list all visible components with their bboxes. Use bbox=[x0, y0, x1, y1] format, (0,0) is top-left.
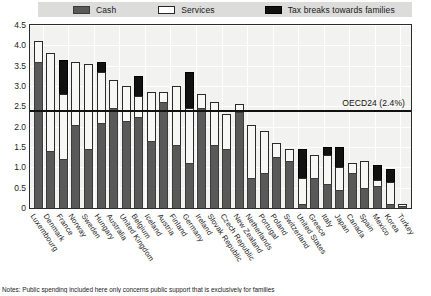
bar-slot bbox=[258, 25, 271, 208]
x-label-slot: Spain bbox=[360, 210, 373, 276]
stacked-bar[interactable] bbox=[134, 76, 143, 208]
bar-segment-services bbox=[386, 182, 395, 204]
x-label-slot: Hungary bbox=[94, 210, 107, 276]
bar-segment-services bbox=[84, 64, 93, 149]
x-label-slot: Luxembourg bbox=[31, 210, 44, 276]
stacked-bar[interactable] bbox=[172, 86, 181, 208]
bar-slot bbox=[233, 25, 246, 208]
x-label-slot: Ireland bbox=[195, 210, 208, 276]
x-label-slot: United Kingdom bbox=[119, 210, 132, 276]
bar-segment-services bbox=[298, 178, 307, 204]
x-label-slot: Greece bbox=[309, 210, 322, 276]
x-label-slot: New Zealand bbox=[233, 210, 246, 276]
legend-item-tax: Tax breaks towards families bbox=[265, 5, 395, 15]
bar-segment-cash bbox=[84, 149, 93, 208]
stacked-bar[interactable] bbox=[285, 149, 294, 208]
x-label-slot: Japan bbox=[334, 210, 347, 276]
stacked-bar[interactable] bbox=[46, 53, 55, 208]
x-label-slot: Sweden bbox=[82, 210, 95, 276]
x-label-slot: Czech Republic bbox=[221, 210, 234, 276]
bar-segment-services bbox=[34, 41, 43, 61]
bar-segment-services bbox=[109, 80, 118, 108]
x-label-slot: Mexico bbox=[372, 210, 385, 276]
stacked-bar[interactable] bbox=[386, 169, 395, 208]
x-label-slot: Austria bbox=[157, 210, 170, 276]
stacked-bar[interactable] bbox=[373, 165, 382, 208]
stacked-bar[interactable] bbox=[71, 62, 80, 208]
bar-segment-cash bbox=[310, 178, 319, 209]
y-axis-tick: 1.5 bbox=[14, 142, 26, 152]
stacked-bar[interactable] bbox=[247, 125, 256, 208]
bar-slot bbox=[321, 25, 334, 208]
stacked-bar[interactable] bbox=[122, 86, 131, 208]
bar-segment-services bbox=[285, 149, 294, 161]
x-label-slot: Switzerland bbox=[284, 210, 297, 276]
bar-segment-tax bbox=[59, 60, 68, 95]
bar-segment-cash bbox=[373, 186, 382, 208]
y-axis-tick: 4.5 bbox=[14, 20, 26, 30]
bar-segment-cash bbox=[159, 102, 168, 208]
y-axis-tick: 3.0 bbox=[14, 81, 26, 91]
bar-segment-cash bbox=[122, 121, 131, 208]
stacked-bar[interactable] bbox=[59, 60, 68, 208]
bar-slot bbox=[396, 25, 409, 208]
cash-swatch-icon bbox=[73, 6, 90, 14]
bar-slot bbox=[334, 25, 347, 208]
stacked-bar[interactable] bbox=[260, 131, 269, 208]
x-label-slot: Belgium bbox=[132, 210, 145, 276]
x-label-slot: Portugal bbox=[259, 210, 272, 276]
stacked-bar[interactable] bbox=[210, 102, 219, 208]
x-label-slot: Germany bbox=[183, 210, 196, 276]
bar-segment-cash bbox=[247, 178, 256, 209]
bar-slot bbox=[82, 25, 95, 208]
oecd-reference-label: OECD24 (2.4%) bbox=[342, 98, 405, 108]
plot-area: OECD24 (2.4%) bbox=[29, 24, 412, 209]
bar-segment-services bbox=[59, 94, 68, 159]
stacked-bar[interactable] bbox=[398, 204, 407, 208]
stacked-bar[interactable] bbox=[360, 161, 369, 208]
x-label-slot: Korea bbox=[385, 210, 398, 276]
bar-segment-cash bbox=[285, 161, 294, 208]
y-axis-tick: 0.5 bbox=[14, 183, 26, 193]
bar-segment-services bbox=[348, 163, 357, 173]
bar-segment-services bbox=[310, 155, 319, 177]
bar-slot bbox=[183, 25, 196, 208]
stacked-bar[interactable] bbox=[222, 114, 231, 208]
chart-legend: Cash Services Tax breaks towards familie… bbox=[38, 2, 412, 17]
legend-item-cash: Cash bbox=[73, 5, 116, 15]
bar-segment-cash bbox=[210, 145, 219, 208]
bar-slot bbox=[133, 25, 146, 208]
x-label-slot: United States bbox=[296, 210, 309, 276]
bar-segment-cash bbox=[398, 206, 407, 208]
bar-slot bbox=[107, 25, 120, 208]
stacked-bar[interactable] bbox=[298, 149, 307, 208]
x-axis-label: Italy bbox=[320, 212, 336, 229]
bar-slot bbox=[271, 25, 284, 208]
bar-slot bbox=[246, 25, 259, 208]
stacked-bar[interactable] bbox=[109, 80, 118, 208]
stacked-bar[interactable] bbox=[34, 41, 43, 208]
x-label-slot: Finland bbox=[170, 210, 183, 276]
bar-segment-cash bbox=[360, 188, 369, 208]
stacked-bar[interactable] bbox=[272, 143, 281, 208]
bar-segment-services bbox=[71, 62, 80, 125]
tax-swatch-icon bbox=[265, 6, 282, 14]
x-label-slot: Australia bbox=[107, 210, 120, 276]
stacked-bar[interactable] bbox=[348, 163, 357, 208]
stacked-bar[interactable] bbox=[335, 147, 344, 208]
stacked-bar[interactable] bbox=[185, 72, 194, 208]
bar-segment-tax bbox=[373, 165, 382, 179]
bar-segment-cash bbox=[260, 173, 269, 208]
bar-segment-tax bbox=[386, 169, 395, 181]
stacked-bar[interactable] bbox=[97, 62, 106, 208]
stacked-bar[interactable] bbox=[310, 155, 319, 208]
stacked-bar[interactable] bbox=[235, 104, 244, 208]
bar-segment-services bbox=[97, 72, 106, 123]
y-axis-tick: 0 bbox=[21, 203, 26, 213]
x-axis-labels: LuxembourgDenmarkFranceNorwaySwedenHunga… bbox=[29, 210, 412, 276]
stacked-bar[interactable] bbox=[84, 64, 93, 208]
bar-segment-services bbox=[147, 92, 156, 141]
bar-segment-tax bbox=[97, 62, 106, 72]
bar-segment-cash bbox=[97, 123, 106, 208]
stacked-bar[interactable] bbox=[323, 147, 332, 208]
